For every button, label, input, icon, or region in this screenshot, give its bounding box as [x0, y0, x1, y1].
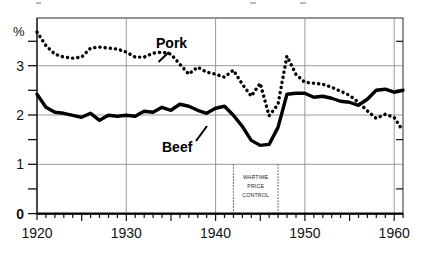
y-tick-label-3: 3: [16, 58, 24, 74]
x-tick-label-1950: 1950: [289, 225, 320, 241]
x-tick-label-1960: 1960: [379, 225, 410, 241]
y-axis-unit-label: %: [13, 24, 25, 39]
chart-container: WARTIME PRICE CONTROL Pork Beef % 3 2 1 …: [0, 0, 433, 254]
y-axis-ticks: [28, 41, 37, 213]
wartime-label-line1: WARTIME: [243, 174, 269, 180]
x-tick-label-1930: 1930: [111, 225, 142, 241]
x-tick-label-1920: 1920: [21, 225, 52, 241]
x-axis-ticks: [37, 214, 403, 221]
y-tick-label-1: 1: [16, 156, 24, 172]
meat-price-line-chart: WARTIME PRICE CONTROL Pork Beef % 3 2 1 …: [0, 0, 433, 254]
x-tick-label-1940: 1940: [200, 225, 231, 241]
pork-series-label: Pork: [156, 35, 187, 51]
y-tick-label-0: 0: [16, 206, 24, 222]
clipped-header-strip: [0, 0, 433, 12]
beef-series-label: Beef: [162, 139, 193, 155]
wartime-label-line3: CONTROL: [242, 192, 269, 198]
wartime-label-line2: PRICE: [247, 183, 264, 189]
y-tick-label-2: 2: [16, 107, 24, 123]
